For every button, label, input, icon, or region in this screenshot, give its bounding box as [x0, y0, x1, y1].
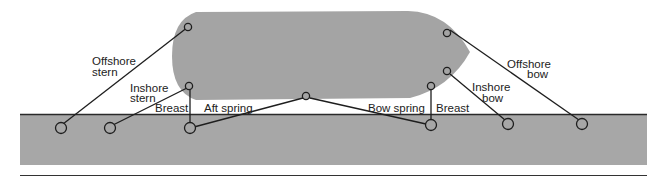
bollard-ship-offshore-stern: [184, 23, 191, 30]
label-breast-fwd: Breast: [436, 102, 470, 114]
ship-hull: [172, 11, 470, 100]
offshore-bow-line: [450, 30, 579, 120]
mooring-lines-diagram: Offshore stern Inshore stern Breast Aft …: [0, 0, 664, 177]
label-inshore-stern-2: stern: [130, 92, 156, 104]
label-inshore-bow-2: bow: [482, 92, 504, 104]
bollard-quay-offshore-bow: [577, 119, 588, 130]
bollard-ship-midship: [302, 92, 309, 99]
bollard-ship-fwd-breast: [427, 82, 434, 89]
bollard-quay-inshore-bow: [503, 119, 514, 130]
label-offshore-stern-2: stern: [92, 66, 118, 78]
bollard-quay-offshore-stern: [56, 123, 67, 134]
label-breast-aft: Breast: [155, 102, 189, 114]
label-offshore-bow-2: bow: [527, 68, 549, 80]
label-bow-spring: Bow spring: [368, 102, 425, 114]
bollard-quay-inshore-stern: [105, 123, 116, 134]
quay: [20, 114, 647, 165]
bollard-ship-inshore-bow: [443, 67, 450, 74]
bollard-quay-fwd: [426, 120, 437, 131]
label-aft-spring: Aft spring: [204, 102, 253, 114]
bollard-ship-inshore-stern: [185, 82, 192, 89]
bollard-quay-aft: [185, 123, 196, 134]
bollard-ship-offshore-bow: [443, 29, 450, 36]
